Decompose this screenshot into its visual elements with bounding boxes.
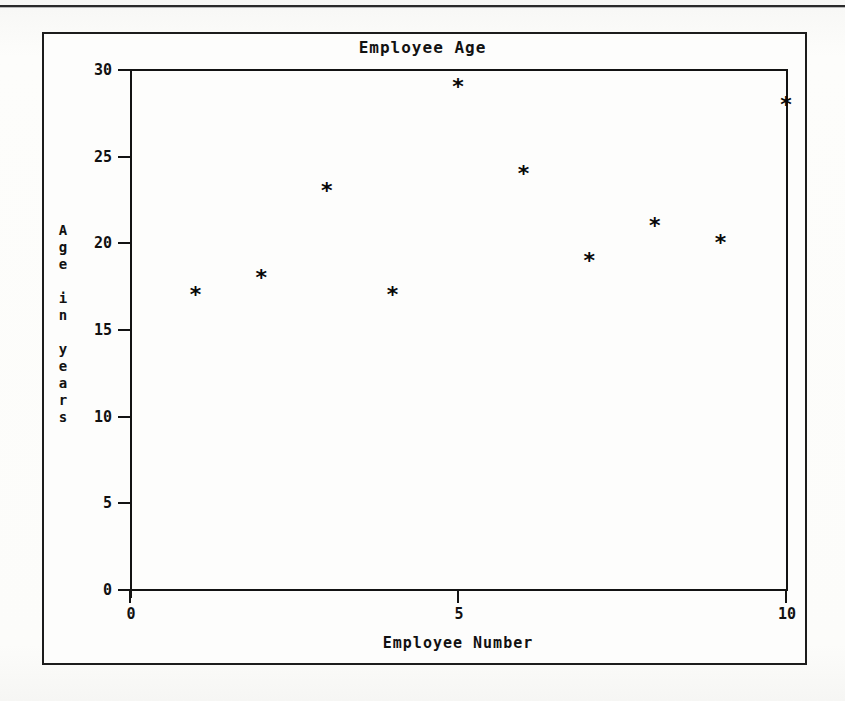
- scatter-chart: Employee Age 051015202530 0510 *********…: [0, 0, 845, 701]
- x-axis-tick-label: 5: [429, 605, 489, 623]
- data-point-marker: *: [384, 284, 400, 300]
- data-point-marker: *: [319, 180, 335, 196]
- data-point-marker: *: [188, 284, 204, 300]
- y-axis-tick-label: 30: [66, 61, 112, 79]
- y-axis-tick-label: 25: [66, 148, 112, 166]
- data-point-marker: *: [581, 250, 597, 266]
- x-axis-tick-label: 10: [757, 605, 817, 623]
- data-point-marker: *: [647, 215, 663, 231]
- data-point-marker: *: [516, 163, 532, 179]
- y-axis-tick-label: 5: [66, 494, 112, 512]
- data-point-marker: *: [253, 267, 269, 283]
- plot-data-area: **********: [126, 66, 794, 594]
- y-axis-tick-label: 0: [66, 581, 112, 599]
- x-axis-title: Employee Number: [130, 634, 786, 652]
- y-axis-title: A g e i n y e a r s: [52, 222, 74, 426]
- x-axis-tick-label: 0: [101, 605, 161, 623]
- data-point-marker: *: [778, 94, 794, 110]
- data-point-marker: *: [450, 76, 466, 92]
- data-point-marker: *: [712, 232, 728, 248]
- chart-title: Employee Age: [0, 38, 845, 57]
